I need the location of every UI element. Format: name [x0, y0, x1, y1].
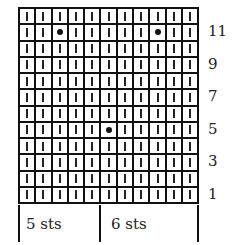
- chart-cell: [134, 90, 150, 106]
- chart-cell: [101, 90, 117, 106]
- chart-cell: [20, 155, 36, 171]
- knit-bar-icon: [59, 125, 61, 134]
- chart-cell: [20, 74, 36, 90]
- knit-bar-icon: [140, 28, 142, 37]
- chart-cell: [118, 107, 134, 123]
- knit-bar-icon: [59, 142, 61, 151]
- row-number-label: 1: [208, 187, 218, 202]
- knit-bar-icon: [75, 142, 77, 151]
- chart-cell: [36, 188, 52, 204]
- knit-bar-icon: [75, 28, 77, 37]
- chart-cell: [20, 42, 36, 58]
- knitting-chart-grid: [18, 7, 199, 204]
- knit-bar-icon: [157, 44, 159, 53]
- knit-bar-icon: [173, 77, 175, 86]
- chart-cell: [118, 139, 134, 155]
- knit-bar-icon: [173, 28, 175, 37]
- chart-cell: [85, 42, 101, 58]
- purl-dot-icon: [155, 29, 161, 35]
- knit-bar-icon: [173, 44, 175, 53]
- chart-cell: [134, 188, 150, 204]
- knit-bar-icon: [140, 142, 142, 151]
- chart-cell: [36, 74, 52, 90]
- chart-cell: [69, 58, 85, 74]
- knit-bar-icon: [173, 190, 175, 199]
- knit-bar-icon: [189, 125, 191, 134]
- row-number-label: 9: [208, 57, 218, 72]
- chart-cell: [101, 42, 117, 58]
- chart-cell: [53, 155, 69, 171]
- chart-cell: [118, 90, 134, 106]
- knit-bar-icon: [157, 190, 159, 199]
- knit-bar-icon: [173, 109, 175, 118]
- chart-cell: [85, 172, 101, 188]
- knit-bar-icon: [173, 158, 175, 167]
- chart-cell: [20, 107, 36, 123]
- knit-bar-icon: [124, 109, 126, 118]
- chart-cell: [85, 139, 101, 155]
- knit-bar-icon: [42, 28, 44, 37]
- chart-cell: [167, 188, 183, 204]
- knit-bar-icon: [26, 77, 28, 86]
- chart-cell: [183, 9, 199, 25]
- knit-bar-icon: [124, 190, 126, 199]
- chart-cell: [69, 9, 85, 25]
- knit-bar-icon: [91, 77, 93, 86]
- purl-dot-icon: [57, 29, 63, 35]
- chart-cell: [150, 9, 166, 25]
- chart-cell: [36, 9, 52, 25]
- chart-cell: [85, 74, 101, 90]
- knit-bar-icon: [75, 44, 77, 53]
- chart-cell: [36, 172, 52, 188]
- chart-cell: [134, 139, 150, 155]
- knit-bar-icon: [26, 12, 28, 21]
- chart-cell: [183, 155, 199, 171]
- knit-bar-icon: [91, 190, 93, 199]
- chart-cell: [183, 25, 199, 41]
- knit-bar-icon: [59, 77, 61, 86]
- chart-cell: [167, 9, 183, 25]
- chart-cell: [53, 123, 69, 139]
- chart-cell: [85, 9, 101, 25]
- chart-cell: [69, 155, 85, 171]
- knit-bar-icon: [75, 125, 77, 134]
- knit-bar-icon: [189, 174, 191, 183]
- chart-cell: [118, 123, 134, 139]
- knit-bar-icon: [140, 158, 142, 167]
- knit-bar-icon: [157, 12, 159, 21]
- knit-bar-icon: [108, 109, 110, 118]
- knit-bar-icon: [140, 77, 142, 86]
- chart-cell: [36, 42, 52, 58]
- knit-bar-icon: [189, 77, 191, 86]
- knit-bar-icon: [124, 60, 126, 69]
- chart-cell: [53, 58, 69, 74]
- knit-bar-icon: [26, 93, 28, 102]
- purl-dot-icon: [106, 127, 112, 133]
- knit-bar-icon: [189, 28, 191, 37]
- knit-bar-icon: [91, 125, 93, 134]
- chart-cell: [167, 107, 183, 123]
- knit-bar-icon: [189, 93, 191, 102]
- chart-cell: [183, 139, 199, 155]
- chart-cell: [183, 123, 199, 139]
- knit-bar-icon: [124, 28, 126, 37]
- chart-cell: [134, 172, 150, 188]
- chart-cell: [118, 155, 134, 171]
- chart-cell: [101, 107, 117, 123]
- chart-cell: [69, 123, 85, 139]
- chart-cell: [134, 155, 150, 171]
- chart-cell: [118, 9, 134, 25]
- knit-bar-icon: [173, 60, 175, 69]
- knit-bar-icon: [157, 174, 159, 183]
- chart-cell: [183, 90, 199, 106]
- knit-bar-icon: [59, 158, 61, 167]
- chart-cell: [118, 42, 134, 58]
- knit-bar-icon: [157, 109, 159, 118]
- row-number-label: 11: [208, 24, 227, 39]
- chart-cell: [36, 107, 52, 123]
- chart-cell: [69, 139, 85, 155]
- chart-cell: [101, 123, 117, 139]
- chart-cell: [85, 123, 101, 139]
- chart-cell: [20, 25, 36, 41]
- knit-bar-icon: [91, 158, 93, 167]
